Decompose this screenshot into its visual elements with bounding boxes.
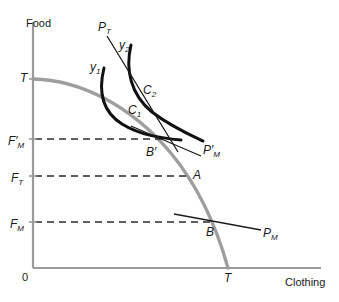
origin-label: 0 <box>22 272 28 283</box>
price-line-pm-prime <box>131 126 201 156</box>
indifference-curve-label-c1-letter: C <box>128 103 137 117</box>
indifference-curve-c2 <box>129 45 203 141</box>
y-tick-label-ft: FT <box>11 169 23 185</box>
price-line-label-pm-prime: P′M <box>203 141 220 157</box>
price-line-label-pm-prime-sub: M <box>213 150 220 159</box>
point-label-b: B <box>206 226 214 238</box>
income-label-y2-sub: 2 <box>125 45 129 54</box>
y-tick-label-t: T <box>20 72 27 84</box>
y-tick-label-fm: FM <box>10 215 24 231</box>
x-axis-title: Clothing <box>285 277 325 288</box>
y-tick-label-ft-sub: T <box>18 178 23 187</box>
y-tick-label-fm-prime: F′M <box>8 132 24 148</box>
point-label-b-prime-letter: B <box>146 145 154 159</box>
point-label-b-prime-mark: ′ <box>154 145 156 159</box>
indifference-curve-label-c2-sub: 2 <box>152 90 156 99</box>
ppf-diagram: Food Clothing 0 T F′M FT FM T B′ A B PT … <box>0 0 339 302</box>
price-line-label-pm: PM <box>263 224 278 240</box>
y-tick-label-fm-sub: M <box>17 224 24 233</box>
diagram-canvas <box>0 0 339 302</box>
price-line-label-pm-prime-letter: P <box>203 143 211 157</box>
x-intercept-label-t: T <box>224 272 231 284</box>
price-line-label-pt-letter: P <box>98 20 106 34</box>
point-label-a: A <box>193 169 201 181</box>
indifference-curve-label-c1-sub: 1 <box>137 110 141 119</box>
indifference-curve-label-c2: C2 <box>143 81 156 97</box>
indifference-curve-label-c2-letter: C <box>143 83 152 97</box>
point-label-b-prime: B′ <box>146 143 156 159</box>
price-line-label-pm-letter: P <box>263 226 271 240</box>
income-label-y1: y1 <box>90 58 100 74</box>
y-tick-label-fm-prime-sub: M <box>18 141 25 150</box>
y-axis-title: Food <box>26 18 51 29</box>
price-line-label-pm-sub: M <box>271 233 278 242</box>
indifference-curve-label-c1: C1 <box>128 101 141 117</box>
price-line-pm <box>174 214 261 230</box>
income-label-y2: y2 <box>119 36 129 52</box>
price-line-label-pt: PT <box>98 18 111 34</box>
income-label-y1-sub: 1 <box>96 67 100 76</box>
price-line-label-pt-sub: T <box>106 27 111 36</box>
